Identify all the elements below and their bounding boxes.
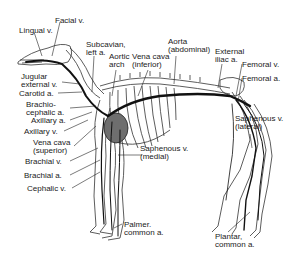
label-palmer-common-a: Palmer. common a. — [124, 221, 164, 237]
label-aorta-abdominal: Aorta (abdominal) — [168, 38, 210, 54]
label-femoral-a: Femoral a. — [242, 75, 280, 83]
label-jugular-external-v: Jugular external v. — [21, 73, 57, 89]
label-saphenous-v-lateral: Saphenous v. (lateral) — [235, 115, 283, 131]
label-plantar-common-a: Plantar, common a. — [215, 233, 255, 249]
label-facial-v: Facial v. — [55, 17, 84, 25]
label-vena-cava-inferior: Vena cava (inferior) — [132, 53, 169, 69]
label-cephalic-v: Cephalic v. — [27, 185, 66, 193]
label-lingual-v: Lingual v. — [19, 27, 53, 35]
label-femoral-v: Femoral v. — [242, 61, 279, 69]
heart-shape — [104, 113, 128, 143]
label-axillary-v: Axillary v. — [24, 128, 58, 136]
label-axillary-a: Axillary a. — [31, 117, 66, 125]
label-aortic-arch: Aortic arch — [109, 53, 129, 69]
label-brachial-v: Brachial v. — [25, 158, 62, 166]
label-vena-cava-superior: Vena cava (superior) — [33, 139, 70, 155]
label-saphenous-v-medial: Saphenous v. (medial) — [140, 145, 188, 161]
label-external-iliac-a: External iliac a. — [215, 48, 244, 64]
label-carotid-a: Carotid a. — [19, 90, 54, 98]
label-brachiocephalic-a: Brachio- cephalic a. — [26, 101, 64, 117]
label-brachial-a: Brachial a. — [24, 172, 62, 180]
